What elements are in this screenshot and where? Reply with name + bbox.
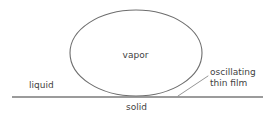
- label-oscillating-thin-film: oscillating thin film: [210, 67, 256, 88]
- label-vapor: vapor: [0, 50, 271, 61]
- callout-leader-line: [178, 76, 208, 96]
- callout-line-1: oscillating: [210, 67, 256, 78]
- label-solid: solid: [126, 102, 147, 113]
- diagram-canvas: vapor liquid solid oscillating thin film: [0, 0, 271, 120]
- label-liquid: liquid: [29, 80, 54, 91]
- callout-line-2: thin film: [210, 78, 256, 89]
